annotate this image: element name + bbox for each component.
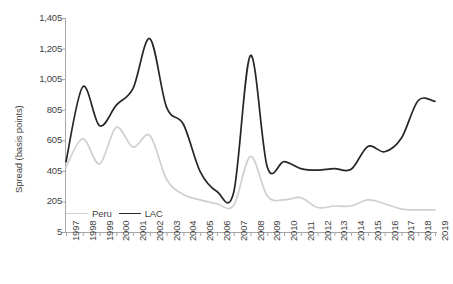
- x-tick-label: 2014: [355, 221, 366, 241]
- x-tick-label: 2006: [221, 221, 232, 241]
- x-tick-label: 2013: [338, 221, 349, 241]
- x-tick-label: 2016: [389, 221, 400, 241]
- x-tick-label-group: 1997199819992000200120022003200420052006…: [0, 0, 453, 284]
- x-tick-label: 2017: [405, 221, 416, 241]
- legend-label-lac: LAC: [145, 208, 163, 219]
- x-tick-label: 2007: [238, 221, 249, 241]
- x-tick-label: 1998: [87, 221, 98, 241]
- x-tick-label: 2004: [187, 221, 198, 241]
- x-tick-label: 2001: [137, 221, 148, 241]
- legend-item-lac: LAC: [119, 208, 163, 219]
- x-tick-label: 2015: [372, 221, 383, 241]
- x-tick-label: 2010: [288, 221, 299, 241]
- x-tick-label: 2000: [120, 221, 131, 241]
- x-tick-label: 2011: [305, 221, 316, 241]
- x-tick-label: 2009: [271, 221, 282, 241]
- x-tick-label: 1997: [70, 221, 81, 241]
- legend-item-peru: Peru: [66, 208, 112, 219]
- legend-swatch-lac: [119, 213, 141, 214]
- legend-label-peru: Peru: [92, 208, 112, 219]
- x-tick-label: 2005: [204, 221, 215, 241]
- x-tick-label: 2018: [422, 221, 433, 241]
- chart-legend: Peru LAC: [66, 208, 163, 219]
- figure-container: 52054056058051,0051,2051,405 19971998199…: [0, 0, 453, 284]
- y-axis-title: Spread (basis points): [13, 105, 24, 193]
- x-tick-label: 2012: [322, 221, 333, 241]
- x-tick-label: 2019: [439, 221, 450, 241]
- legend-swatch-peru: [66, 213, 88, 214]
- x-tick-label: 1999: [104, 221, 115, 241]
- x-tick-label: 2003: [171, 221, 182, 241]
- x-tick-label: 2002: [154, 221, 165, 241]
- x-tick-label: 2008: [255, 221, 266, 241]
